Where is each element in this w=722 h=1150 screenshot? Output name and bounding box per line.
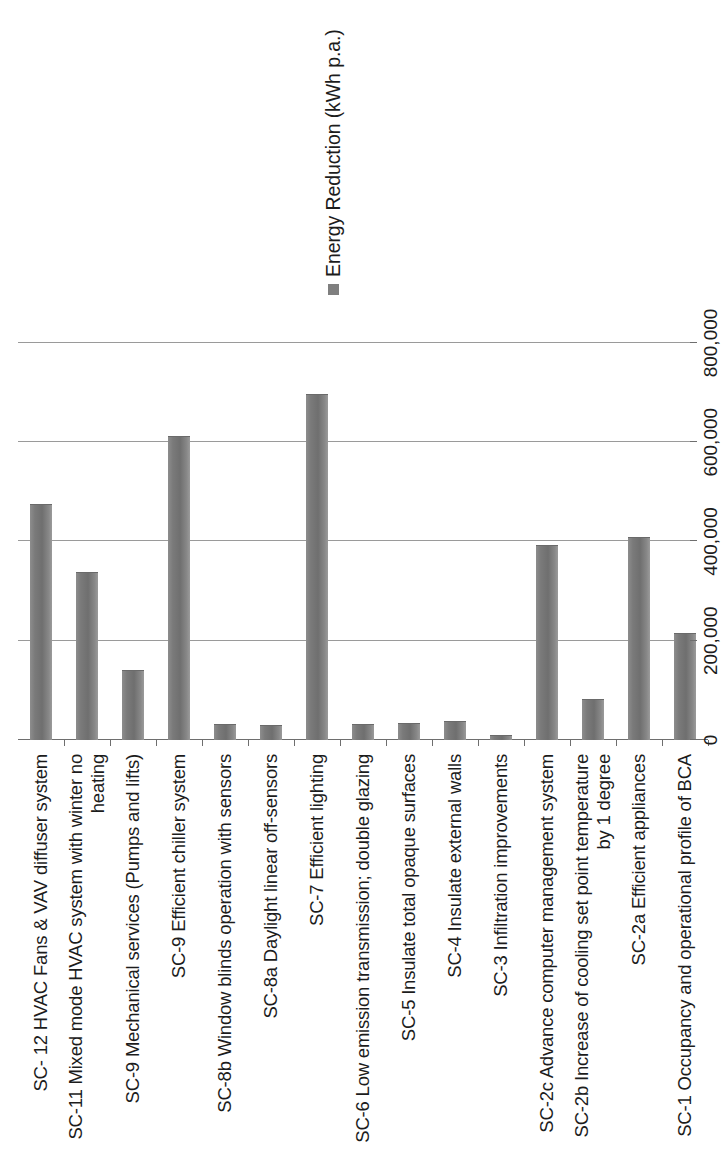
category-axis-tick [386, 740, 387, 746]
category-axis-tick [64, 740, 65, 746]
bar-row[interactable] [674, 343, 696, 740]
bar-row[interactable] [536, 343, 558, 740]
category-axis-tick [110, 740, 111, 746]
bar-row[interactable] [490, 343, 512, 740]
category-label: SC-2b Increase of cooling set point temp… [571, 754, 615, 1150]
bar-row[interactable] [168, 343, 190, 740]
bar-row[interactable] [306, 343, 328, 740]
bar-row[interactable] [628, 343, 650, 740]
bar[interactable] [628, 537, 650, 740]
value-axis-tick-label: 0 [700, 735, 722, 746]
category-axis-tick [340, 740, 341, 746]
bar-row[interactable] [76, 343, 98, 740]
bar-row[interactable] [122, 343, 144, 740]
plot-area [18, 343, 708, 740]
category-label: SC-11 Mixed mode HVAC system with winter… [65, 754, 109, 1150]
bar-row[interactable] [214, 343, 236, 740]
bar[interactable] [168, 436, 190, 740]
category-label: SC-8a Daylight linear off-sensors [260, 754, 282, 1150]
category-axis-labels: SC- 12 HVAC Fans & VAV diffuser systemSC… [18, 746, 708, 1150]
bar[interactable] [444, 721, 466, 740]
legend-swatch-icon [328, 284, 339, 295]
value-axis-tick-mark [690, 342, 697, 343]
value-axis-tick-label: 200,000 [700, 606, 722, 675]
value-axis-tick-mark [690, 739, 697, 740]
value-axis-tick-label: 800,000 [700, 309, 722, 378]
bar-row[interactable] [260, 343, 282, 740]
bar[interactable] [352, 724, 374, 740]
bar[interactable] [214, 724, 236, 740]
bar-row[interactable] [582, 343, 604, 740]
category-label: SC-9 Efficient chiller system [168, 754, 190, 1150]
category-label: SC-7 Efficient lighting [306, 754, 328, 1150]
bar-row[interactable] [352, 343, 374, 740]
bar[interactable] [306, 394, 328, 740]
category-label: SC-3 Infiltration improvements [490, 754, 512, 1150]
value-axis-tick-mark [690, 541, 697, 542]
value-axis-tick-mark [690, 640, 697, 641]
bar[interactable] [582, 699, 604, 740]
category-axis-tick [294, 740, 295, 746]
category-label: SC- 12 HVAC Fans & VAV diffuser system [30, 754, 52, 1150]
category-label: SC-5 Insulate total opaque surfaces [398, 754, 420, 1150]
bar[interactable] [260, 725, 282, 740]
value-axis-tick-label: 400,000 [700, 507, 722, 576]
category-axis-tick [662, 740, 663, 746]
bar[interactable] [76, 572, 98, 740]
category-label: SC-4 Insulate external walls [444, 754, 466, 1150]
bar-row[interactable] [398, 343, 420, 740]
bar-row[interactable] [444, 343, 466, 740]
legend-entry-label: Energy Reduction (kWh p.a.) [322, 29, 345, 277]
bar[interactable] [122, 670, 144, 740]
category-label: SC-6 Low emission transmission; double g… [352, 754, 374, 1150]
bar[interactable] [490, 735, 512, 740]
category-axis-tick [432, 740, 433, 746]
bar[interactable] [536, 545, 558, 740]
category-label: SC-8b Window blinds operation with senso… [214, 754, 236, 1150]
bar[interactable] [674, 633, 696, 740]
category-axis-tick [524, 740, 525, 746]
category-axis-tick [156, 740, 157, 746]
bar[interactable] [398, 723, 420, 740]
value-axis-tick-label: 600,000 [700, 408, 722, 477]
category-label: SC-1 Occupancy and operational profile o… [674, 754, 696, 1150]
bar-series [18, 343, 708, 740]
category-axis-tick [570, 740, 571, 746]
bar[interactable] [30, 504, 52, 740]
value-axis-tick-mark [690, 441, 697, 442]
chart-legend: Energy Reduction (kWh p.a.) [322, 29, 345, 295]
category-axis-tick [248, 740, 249, 746]
category-axis-tick [202, 740, 203, 746]
category-axis-tick [616, 740, 617, 746]
category-axis-tick [478, 740, 479, 746]
category-label: SC-2c Advance computer management system [536, 754, 558, 1150]
category-label: SC-9 Mechanical services (Pumps and lift… [122, 754, 144, 1150]
category-label: SC-2a Efficient appliances [628, 754, 650, 1150]
bar-row[interactable] [30, 343, 52, 740]
